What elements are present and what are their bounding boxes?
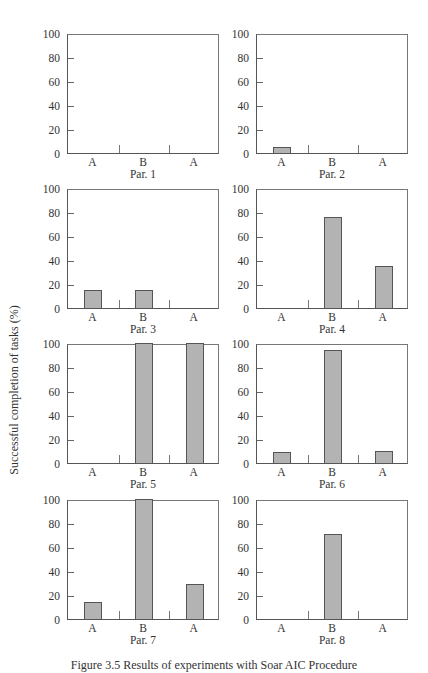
x-tick-label: A — [184, 311, 204, 323]
category-separator — [308, 145, 309, 153]
y-tick — [68, 130, 74, 131]
y-tick — [257, 82, 263, 83]
x-tick-label: B — [133, 466, 153, 478]
category-separator — [358, 300, 359, 308]
category-separator — [119, 300, 120, 308]
chart-panel-5: 020406080100ABAPar. 5 — [43, 338, 233, 488]
y-tick-label: 80 — [227, 207, 249, 219]
x-tick-label: B — [322, 311, 342, 323]
y-tick-label: 100 — [38, 338, 60, 350]
y-tick-label: 0 — [227, 458, 249, 470]
bar-b — [135, 499, 153, 619]
panel-title: Par. 7 — [67, 634, 219, 646]
y-tick-label: 100 — [38, 494, 60, 506]
y-tick-label: 80 — [38, 207, 60, 219]
plot-area: 020406080100 — [256, 344, 408, 464]
y-tick — [68, 213, 74, 214]
y-tick — [68, 368, 74, 369]
category-separator — [169, 145, 170, 153]
y-tick-label: 40 — [38, 100, 60, 112]
x-tick-label: B — [322, 466, 342, 478]
y-tick-label: 0 — [38, 148, 60, 160]
y-tick — [257, 548, 263, 549]
y-tick — [68, 548, 74, 549]
x-tick-label: A — [82, 156, 102, 168]
bar-a — [375, 451, 393, 463]
y-tick-label: 100 — [227, 183, 249, 195]
y-tick-label: 100 — [227, 494, 249, 506]
bar-a — [186, 343, 204, 463]
x-tick-label: A — [82, 622, 102, 634]
y-tick-label: 60 — [38, 76, 60, 88]
y-tick-label: 0 — [227, 614, 249, 626]
bar-b — [324, 534, 342, 619]
y-tick — [68, 440, 74, 441]
y-tick-label: 20 — [38, 124, 60, 136]
x-tick-label: A — [184, 156, 204, 168]
plot-area: 020406080100 — [67, 344, 219, 464]
category-separator — [119, 145, 120, 153]
plot-area: 020406080100 — [67, 500, 219, 620]
y-tick — [68, 82, 74, 83]
chart-panel-1: 020406080100ABAPar. 1 — [43, 28, 233, 178]
y-tick-label: 0 — [227, 148, 249, 160]
y-tick — [257, 416, 263, 417]
panel-title: Par. 5 — [67, 478, 219, 490]
chart-panel-4: 020406080100ABAPar. 4 — [232, 183, 422, 333]
category-separator — [119, 611, 120, 619]
category-separator — [308, 455, 309, 463]
x-tick-label: A — [271, 311, 291, 323]
y-tick-label: 60 — [38, 386, 60, 398]
y-tick — [257, 261, 263, 262]
bar-a — [186, 584, 204, 619]
y-tick-label: 60 — [227, 386, 249, 398]
x-tick-label: A — [373, 466, 393, 478]
y-tick-label: 80 — [38, 362, 60, 374]
x-tick-label: A — [271, 466, 291, 478]
y-tick-label: 40 — [38, 410, 60, 422]
y-tick — [257, 237, 263, 238]
category-separator — [358, 611, 359, 619]
plot-area: 020406080100 — [256, 500, 408, 620]
x-tick-label: B — [322, 156, 342, 168]
bar-b — [324, 350, 342, 463]
y-tick-label: 0 — [38, 303, 60, 315]
x-tick-label: B — [133, 622, 153, 634]
y-tick — [257, 106, 263, 107]
bar-a — [84, 290, 102, 308]
panel-title: Par. 6 — [256, 478, 408, 490]
y-tick — [68, 524, 74, 525]
category-separator — [119, 455, 120, 463]
y-tick-label: 80 — [227, 362, 249, 374]
category-separator — [169, 455, 170, 463]
panel-title: Par. 8 — [256, 634, 408, 646]
y-tick-label: 100 — [38, 183, 60, 195]
y-tick — [257, 392, 263, 393]
bar-a — [375, 266, 393, 308]
y-tick-label: 60 — [227, 231, 249, 243]
y-tick-label: 20 — [38, 590, 60, 602]
x-tick-label: B — [133, 311, 153, 323]
y-tick-label: 40 — [38, 566, 60, 578]
y-tick-label: 100 — [227, 28, 249, 40]
bar-a — [84, 602, 102, 619]
panel-title: Par. 4 — [256, 323, 408, 335]
y-tick — [68, 285, 74, 286]
y-tick-label: 60 — [227, 542, 249, 554]
y-tick — [68, 106, 74, 107]
y-tick — [257, 285, 263, 286]
panel-title: Par. 3 — [67, 323, 219, 335]
y-tick-label: 40 — [38, 255, 60, 267]
category-separator — [358, 455, 359, 463]
panel-title: Par. 2 — [256, 168, 408, 180]
y-tick — [257, 130, 263, 131]
x-tick-label: A — [271, 622, 291, 634]
y-tick — [257, 572, 263, 573]
plot-area: 020406080100 — [256, 34, 408, 154]
y-tick-label: 0 — [227, 303, 249, 315]
bar-a — [273, 452, 291, 463]
category-separator — [308, 611, 309, 619]
y-tick-label: 40 — [227, 100, 249, 112]
x-tick-label: A — [373, 311, 393, 323]
chart-panel-7: 020406080100ABAPar. 7 — [43, 494, 233, 644]
